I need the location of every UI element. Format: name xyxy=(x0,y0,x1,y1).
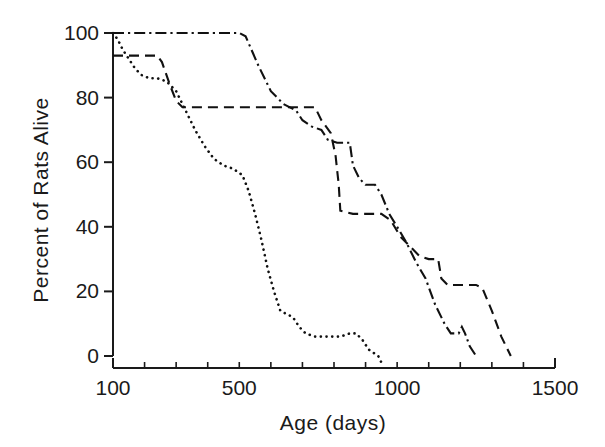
x-tick-label-100: 100 xyxy=(95,376,130,399)
x-tick-label-1500: 1500 xyxy=(532,376,579,399)
series-dotted-curve xyxy=(113,33,385,369)
x-tick-label-1000: 1000 xyxy=(374,376,421,399)
y-axis xyxy=(104,33,113,356)
x-tick-label-500: 500 xyxy=(222,376,257,399)
survival-curve-chart: 020406080100 10050010001500 Age (days) P… xyxy=(0,0,605,447)
chart-canvas: 020406080100 10050010001500 Age (days) P… xyxy=(0,0,605,447)
y-tick-label-20: 20 xyxy=(76,279,99,302)
series-dashed-curve xyxy=(113,56,511,356)
y-tick-label-60: 60 xyxy=(76,150,99,173)
y-tick-label-40: 40 xyxy=(76,215,99,238)
y-tick-label-0: 0 xyxy=(87,344,99,367)
y-tick-label-80: 80 xyxy=(76,86,99,109)
x-tick-labels: 10050010001500 xyxy=(95,376,578,399)
x-axis xyxy=(113,358,555,368)
x-axis-title: Age (days) xyxy=(280,411,387,434)
series-container xyxy=(113,33,511,369)
y-tick-labels: 020406080100 xyxy=(64,21,99,367)
series-dash-dot-curve xyxy=(113,33,476,356)
y-tick-label-100: 100 xyxy=(64,21,99,44)
y-axis-title: Percent of Rats Alive xyxy=(29,97,52,302)
